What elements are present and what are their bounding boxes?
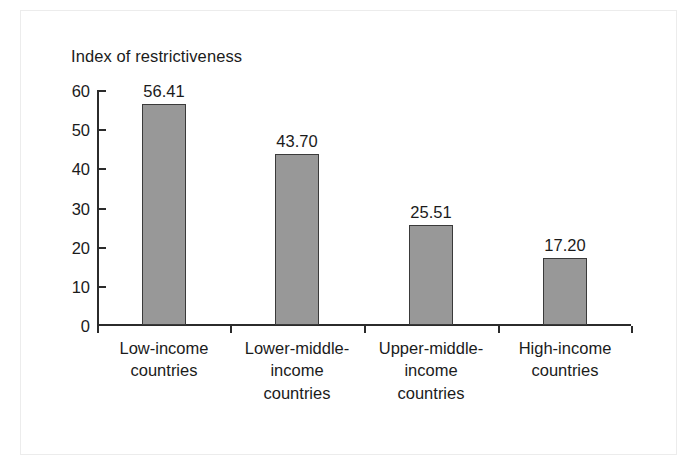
y-tick-10	[98, 286, 106, 288]
x-category-label-upper-middle-income: Upper-middle- income countries	[362, 337, 500, 404]
y-tick-label-20: 20	[44, 240, 90, 257]
x-tick-0	[97, 326, 99, 333]
y-tick-label-0: 0	[44, 318, 90, 335]
bar-low-income[interactable]	[142, 104, 186, 325]
x-category-label-line: countries	[228, 382, 366, 404]
x-category-label-line: Low-income	[97, 337, 231, 359]
x-category-label-high-income: High-income countries	[498, 337, 632, 382]
x-tick-4	[631, 326, 633, 333]
x-category-label-line: income	[362, 359, 500, 381]
x-category-label-line: countries	[97, 359, 231, 381]
y-tick-50	[98, 129, 106, 131]
y-tick-label-10: 10	[44, 279, 90, 296]
bar-upper-middle-income[interactable]	[409, 225, 453, 325]
bar-value-high-income: 17.20	[525, 237, 605, 254]
y-tick-label-60: 60	[44, 83, 90, 100]
bar-value-low-income: 56.41	[124, 83, 204, 100]
x-tick-1	[230, 326, 232, 333]
x-category-label-line: countries	[498, 359, 632, 381]
y-tick-30	[98, 208, 106, 210]
x-category-label-line: Lower-middle-	[228, 337, 366, 359]
y-tick-60	[98, 90, 106, 92]
plot-area: 60 50 40 30 20 10 0 56.41 43.70 25.51 17…	[0, 0, 697, 466]
bar-value-upper-middle-income: 25.51	[391, 204, 471, 221]
bar-lower-middle-income[interactable]	[275, 154, 319, 325]
x-tick-3	[498, 326, 500, 333]
y-tick-40	[98, 168, 106, 170]
y-tick-label-50: 50	[44, 122, 90, 139]
y-tick-label-40: 40	[44, 161, 90, 178]
bar-high-income[interactable]	[543, 258, 587, 325]
bar-value-lower-middle-income: 43.70	[257, 133, 337, 150]
x-category-label-line: High-income	[498, 337, 632, 359]
y-tick-label-30: 30	[44, 201, 90, 218]
y-tick-20	[98, 247, 106, 249]
x-category-label-lower-middle-income: Lower-middle- income countries	[228, 337, 366, 404]
x-category-label-line: Upper-middle-	[362, 337, 500, 359]
x-category-label-line: countries	[362, 382, 500, 404]
x-category-label-low-income: Low-income countries	[97, 337, 231, 382]
chart-figure: Index of restrictiveness 60 50 40 30 20 …	[0, 0, 697, 466]
x-category-label-line: income	[228, 359, 366, 381]
x-tick-2	[364, 326, 366, 333]
